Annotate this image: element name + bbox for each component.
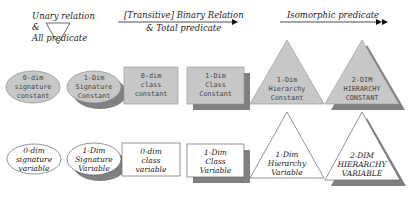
label-zero-dim-signature-constant: 0-dimsignatureconstant — [8, 74, 58, 101]
header-isomorphic-predicate: Isomorphic predicate — [287, 10, 379, 20]
header-unary-relation: Unary relation — [32, 11, 95, 21]
label-zero-dim-class-variable: 0-dimclassvariable — [122, 147, 180, 174]
label-zero-dim-signature-variable: 0-dimsignaturevariable — [8, 146, 60, 173]
label-one-dim-signature-variable: 1-DimSignatureVariable — [68, 146, 120, 173]
label-one-dim-hierarchy-constant: 1-DimHierarchyConstant — [257, 76, 317, 103]
label-one-dim-hierarchy-variable: 1-DimHierarchyVariable — [257, 150, 317, 177]
label-one-dim-class-variable: 1-DimClassVariable — [187, 148, 244, 175]
header-binary-relation: [Transitive] Binary Relation — [124, 10, 244, 20]
label-one-dim-class-constant: 1-DimClassConstant — [187, 72, 244, 99]
label-one-dim-signature-constant: 1-DimSignatureConstant — [69, 74, 119, 101]
header-all-predicate: All predicate — [32, 33, 87, 43]
label-two-dim-hierarchy-variable: 2-DIMHIERARCHYVARIABLE — [330, 151, 394, 178]
header-unary-ampersand: & — [32, 22, 40, 32]
header-total-predicate: & Total predicate — [146, 23, 221, 33]
label-zero-dim-class-constant: 0-dimclassconstant — [124, 72, 178, 99]
label-two-dim-hierarchy-constant: 2-DIMHIERARCHYCONSTANT — [332, 76, 392, 103]
